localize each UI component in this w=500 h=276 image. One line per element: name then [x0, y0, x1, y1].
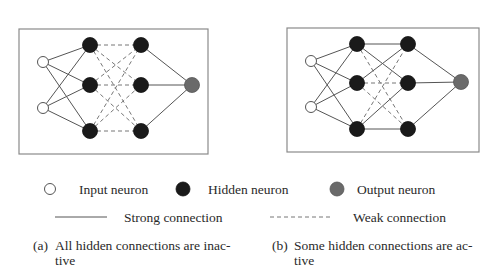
input-neuron-icon	[38, 57, 49, 68]
panel-b-network	[287, 28, 479, 152]
legend-hidden-neuron-label: Hidden neuron	[208, 182, 289, 197]
output-neuron-icon	[185, 78, 200, 93]
caption-b-line1: Some hidden connections are ac-	[294, 238, 473, 253]
hidden-neuron-icon	[401, 37, 416, 52]
legend: Input neuron Hidden neuron Output neuron…	[45, 182, 447, 225]
legend-input-neuron-icon	[45, 184, 56, 195]
hidden-neuron-icon	[401, 76, 416, 91]
caption-b-label: (b)	[272, 238, 288, 253]
panel-b-frame	[287, 28, 479, 152]
legend-input-neuron-label: Input neuron	[79, 182, 149, 197]
input-neuron-icon	[38, 103, 49, 114]
caption-a: (a) All hidden connections are inac- tiv…	[33, 238, 231, 268]
caption-a-line1: All hidden connections are inac-	[55, 238, 231, 253]
input-neuron-icon	[306, 102, 317, 113]
hidden-neuron-icon	[350, 37, 365, 52]
caption-b: (b) Some hidden connections are ac- tive	[272, 238, 473, 268]
legend-strong-connection-label: Strong connection	[124, 210, 223, 225]
hidden-neuron-icon	[83, 124, 98, 139]
legend-weak-connection-label: Weak connection	[353, 210, 446, 225]
hidden-neuron-icon	[350, 76, 365, 91]
hidden-neuron-icon	[134, 124, 149, 139]
hidden-neuron-icon	[134, 78, 149, 93]
legend-output-neuron-icon	[330, 182, 344, 196]
hidden-neuron-icon	[83, 78, 98, 93]
caption-a-label: (a)	[33, 238, 48, 253]
legend-output-neuron-label: Output neuron	[357, 182, 436, 197]
caption-b-line2: tive	[294, 253, 314, 268]
hidden-neuron-icon	[350, 122, 365, 137]
hidden-neuron-icon	[134, 38, 149, 53]
caption-a-line2: tive	[55, 253, 75, 268]
input-neuron-icon	[306, 56, 317, 67]
panel-a-network	[19, 29, 208, 154]
legend-hidden-neuron-icon	[176, 182, 190, 196]
neural-network-figure: Input neuron Hidden neuron Output neuron…	[0, 0, 500, 276]
hidden-neuron-icon	[401, 122, 416, 137]
hidden-neuron-icon	[83, 38, 98, 53]
output-neuron-icon	[454, 75, 469, 90]
